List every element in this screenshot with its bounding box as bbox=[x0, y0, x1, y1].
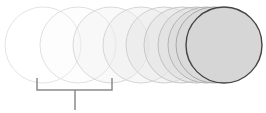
circle-10 bbox=[186, 7, 262, 83]
diagram-canvas bbox=[0, 0, 266, 113]
